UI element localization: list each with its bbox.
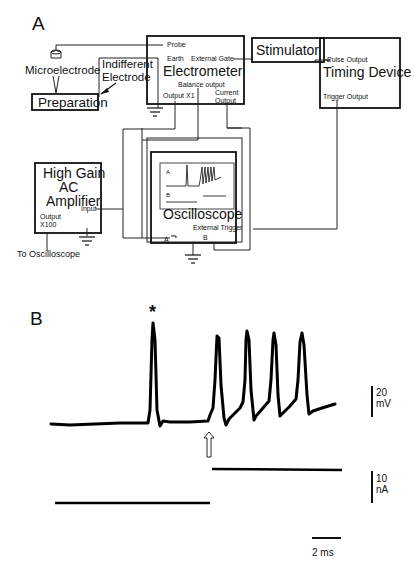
electrometer-earth-label: Earth: [167, 55, 184, 62]
ground-icon: [147, 108, 163, 116]
oscilloscope-external-trigger-label: External Trigger: [193, 224, 243, 232]
electrometer-title: Electrometer: [163, 63, 243, 79]
panel-b-label: B: [30, 308, 43, 329]
oscilloscope-screen-b-label: B: [166, 192, 170, 198]
electrometer-external-gate-label: External Gate: [191, 55, 234, 62]
indifferent-electrode-label-1: Indifferent: [102, 58, 154, 70]
electrometer-output-x1-label: Output X1: [163, 92, 195, 100]
experimental-setup-figure: A Microelectrode Indifferent Electrode P…: [0, 0, 414, 569]
oscilloscope-input-b-label: B: [203, 234, 208, 241]
oscilloscope-screen-trace-b: [166, 196, 226, 202]
oscilloscope-screen-trace-a: [166, 165, 221, 186]
timing-device-title: Timing Device: [323, 64, 411, 80]
current-scale-unit: nA: [376, 484, 389, 495]
electrometer-current-output-label-2: Output: [215, 97, 236, 105]
amplifier-output-label-1: Output: [40, 213, 61, 221]
timing-device-pulse-output-label: Pulse Output: [327, 56, 368, 64]
electrometer-probe-label: Probe: [167, 41, 186, 48]
ground-icon: [185, 255, 201, 263]
oscilloscope-title: Oscilloscope: [163, 206, 243, 222]
voltage-scale-value: 20: [376, 387, 388, 398]
panel-a-label: A: [32, 13, 45, 34]
injected-current-trace: [55, 469, 342, 503]
ground-icon: [79, 237, 95, 245]
electrometer-current-output-label-1: Current: [215, 89, 238, 96]
amplifier-output-label-2: X100: [40, 221, 56, 228]
stimulus-onset-arrow-icon: [204, 432, 214, 457]
current-scale-value: 10: [376, 473, 388, 484]
to-oscilloscope-label: To Oscilloscope: [17, 249, 80, 259]
time-scale-label: 2 ms: [312, 547, 334, 558]
amplifier-input-label: Input: [81, 205, 97, 213]
membrane-voltage-trace: [51, 323, 335, 426]
indifferent-electrode-label-2: Electrode: [102, 71, 151, 83]
preparation-label: Preparation: [38, 95, 108, 110]
oscilloscope-input-a-label: A: [164, 236, 169, 243]
stimulator-title: Stimulator: [256, 42, 319, 58]
oscilloscope-screen-a-label: A: [166, 169, 170, 175]
timing-device-trigger-output-label: Trigger Output: [323, 93, 368, 101]
electrometer-balance-output-label: Balance output: [178, 81, 225, 89]
voltage-scale-unit: mV: [376, 398, 391, 409]
microelectrode-label: Microelectrode: [25, 64, 100, 76]
spontaneous-spike-marker: *: [149, 302, 156, 322]
